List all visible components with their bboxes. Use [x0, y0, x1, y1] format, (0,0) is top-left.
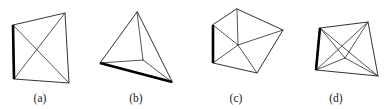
figure-c-spoke-upper-left	[213, 25, 238, 45]
figure-d-group: (d)	[316, 22, 378, 105]
figure-c-group: (c)	[213, 9, 283, 105]
figure-b-spoke-left	[100, 60, 143, 63]
figure-d-diagonal-2	[316, 22, 368, 70]
figure-panel: (a) (b) (c)	[0, 0, 386, 109]
figure-d-spoke-top-left	[320, 28, 345, 58]
figure-c-spoke-lower-left	[213, 45, 238, 63]
caption-b: (b)	[129, 92, 143, 105]
figure-c-outline	[213, 9, 283, 73]
figure-c-spoke-bottom	[238, 45, 257, 73]
caption-c: (c)	[230, 92, 243, 105]
caption-a: (a)	[34, 92, 47, 105]
figure-b-group: (b)	[100, 12, 172, 105]
figure-a-diagonal-1	[13, 25, 69, 83]
figure-b-bold-edge	[100, 63, 172, 82]
figure-a-group: (a)	[13, 13, 69, 105]
figure-c-spoke-right	[238, 30, 283, 45]
figure-a-bold-edge	[13, 25, 14, 79]
polyhedra-diagram: (a) (b) (c)	[0, 0, 386, 109]
figure-b-spoke-apex	[137, 12, 143, 60]
figure-c-spoke-top	[237, 9, 238, 45]
figure-a-outline	[13, 13, 69, 83]
figure-d-bold-edge	[316, 28, 320, 70]
figure-d-spoke-bottom-left	[316, 58, 345, 70]
caption-d: (d)	[329, 92, 343, 105]
